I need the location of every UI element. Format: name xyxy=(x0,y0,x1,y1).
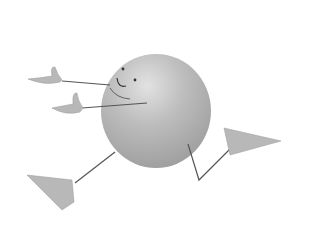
upper-arm xyxy=(62,81,110,85)
right-foot xyxy=(224,128,281,155)
upper-hand xyxy=(28,67,62,84)
running-ball-character xyxy=(0,0,317,226)
body xyxy=(101,54,211,168)
right-eye xyxy=(134,79,137,82)
left-eye xyxy=(122,68,125,71)
left-foot xyxy=(27,175,74,210)
lower-hand xyxy=(52,93,83,113)
left-leg xyxy=(75,152,115,183)
